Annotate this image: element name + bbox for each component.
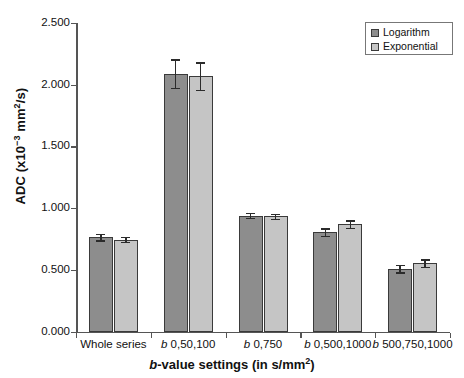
- error-bar-cap-upper: [321, 228, 330, 229]
- x-axis-line: [76, 332, 450, 334]
- bar: [264, 216, 288, 331]
- y-axis-tick-label: 0.000: [24, 326, 70, 337]
- error-bar-cap-lower: [346, 228, 355, 229]
- error-bar-cap-lower: [171, 88, 180, 89]
- error-bar-cap-lower: [421, 267, 430, 268]
- y-axis-tick-mark: [71, 270, 76, 271]
- error-bar-cap-upper: [396, 265, 405, 266]
- x-tick-text: Whole series: [80, 338, 146, 350]
- bar: [413, 263, 437, 331]
- legend-label: Exponential: [383, 41, 438, 52]
- legend-label: Logarithm: [383, 27, 430, 38]
- y-axis-tick-mark: [71, 146, 76, 147]
- plot-area: [76, 18, 452, 333]
- y-axis-tick-label: 2.500: [24, 17, 70, 28]
- error-bar-stem: [200, 62, 201, 89]
- error-bar-cap-upper: [421, 259, 430, 260]
- error-bar-cap-lower: [396, 272, 405, 273]
- error-bar-cap-upper: [96, 234, 105, 235]
- x-axis-tick-label: b 500,750,1000: [367, 338, 458, 350]
- error-bar-cap-upper: [171, 59, 180, 60]
- bar: [114, 240, 138, 332]
- error-bar-cap-lower: [121, 242, 130, 243]
- x-axis-title: b-value settings (in s/mm2): [0, 356, 464, 372]
- error-bar-cap-upper: [121, 237, 130, 238]
- error-bar-cap-upper: [246, 213, 255, 214]
- bar: [164, 74, 188, 332]
- bar: [338, 224, 362, 331]
- legend-swatch: [371, 43, 379, 51]
- error-bar-stem: [175, 59, 176, 87]
- x-tick-text: 500,750,1000: [379, 338, 453, 350]
- error-bar-cap-lower: [321, 236, 330, 237]
- y-axis-tick-labels: 0.0000.5001.0001.5002.0002.500: [20, 0, 70, 378]
- y-axis-tick-label: 2.000: [24, 79, 70, 90]
- error-bar-cap-lower: [271, 219, 280, 220]
- y-axis-tick-label: 0.500: [24, 264, 70, 275]
- x-tick-text: 0,500,1000: [311, 338, 372, 350]
- bar: [239, 216, 263, 332]
- y-axis-tick-mark: [71, 23, 76, 24]
- legend-item[interactable]: Logarithm: [371, 26, 448, 39]
- error-bar-cap-lower: [196, 90, 205, 91]
- x-tick-text: 0,750: [250, 338, 282, 350]
- legend: LogarithmExponential: [365, 22, 453, 55]
- x-tick-text: 0,50,100: [167, 338, 215, 350]
- x-axis-title-main: -value settings (in s/mm: [157, 357, 305, 372]
- bar: [89, 237, 113, 331]
- y-axis-tick-mark: [71, 85, 76, 86]
- error-bar-cap-upper: [271, 214, 280, 215]
- bar: [388, 269, 412, 332]
- legend-item[interactable]: Exponential: [371, 40, 448, 53]
- y-axis-tick-mark: [71, 208, 76, 209]
- error-bar-cap-upper: [196, 62, 205, 63]
- bar: [189, 76, 213, 331]
- y-axis-tick-label: 1.000: [24, 202, 70, 213]
- error-bar-cap-upper: [346, 220, 355, 221]
- error-bar-cap-lower: [246, 218, 255, 219]
- y-axis-line: [76, 23, 78, 333]
- bar: [313, 232, 337, 331]
- y-axis-tick-label: 1.500: [24, 140, 70, 151]
- legend-swatch: [371, 29, 379, 37]
- bar-chart-figure: ADC (x10−3 mm2/s) 0.0000.5001.0001.5002.…: [0, 0, 464, 378]
- x-axis-title-tail: ): [310, 357, 314, 372]
- error-bar-cap-lower: [96, 240, 105, 241]
